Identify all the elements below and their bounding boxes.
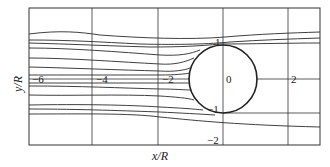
x-tick-m6: −6 [32, 73, 44, 85]
plot-frame [29, 8, 320, 145]
y-axis-label: y/R [11, 75, 25, 93]
streamline [29, 48, 200, 55]
x-tick-m2: −2 [162, 73, 174, 85]
streamline [29, 114, 320, 127]
streamline [29, 67, 190, 71]
x-axis-label: x/R [151, 149, 169, 163]
x-tick-2: 2 [291, 73, 297, 85]
x-tick-0: 0 [226, 73, 232, 85]
streamline [29, 95, 194, 100]
streamline [29, 58, 194, 64]
streamline [29, 43, 320, 47]
y-tick-1: 1 [215, 36, 221, 48]
x-tick-m4: −4 [96, 73, 108, 85]
y-tick-m1: −1 [207, 103, 219, 115]
streamline-diagram: −6 −4 −2 0 2 1 −1 −2 x/R y/R [0, 0, 330, 167]
y-tick-m2: −2 [207, 134, 219, 146]
streamline [29, 86, 191, 90]
streamline [29, 32, 320, 39]
